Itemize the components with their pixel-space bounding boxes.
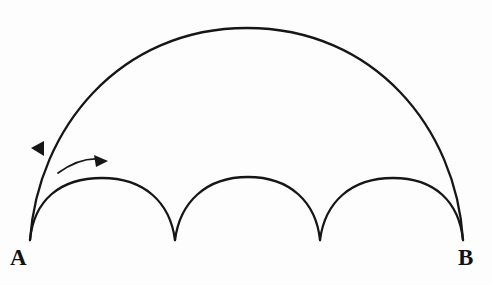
small-arc-2-path (175, 177, 320, 240)
point-label-b: B (458, 246, 473, 269)
point-label-a: A (10, 246, 27, 269)
arc-diagram-svg (0, 0, 492, 285)
small-arc-1-path (30, 178, 175, 240)
large-arc-path (30, 28, 463, 240)
small-arc-3-path (320, 178, 463, 240)
right-arrowhead-icon (94, 155, 108, 167)
figure-root: A B (0, 0, 492, 285)
left-arrowhead-icon (31, 141, 44, 156)
curved-arrow-shaft (58, 159, 99, 173)
